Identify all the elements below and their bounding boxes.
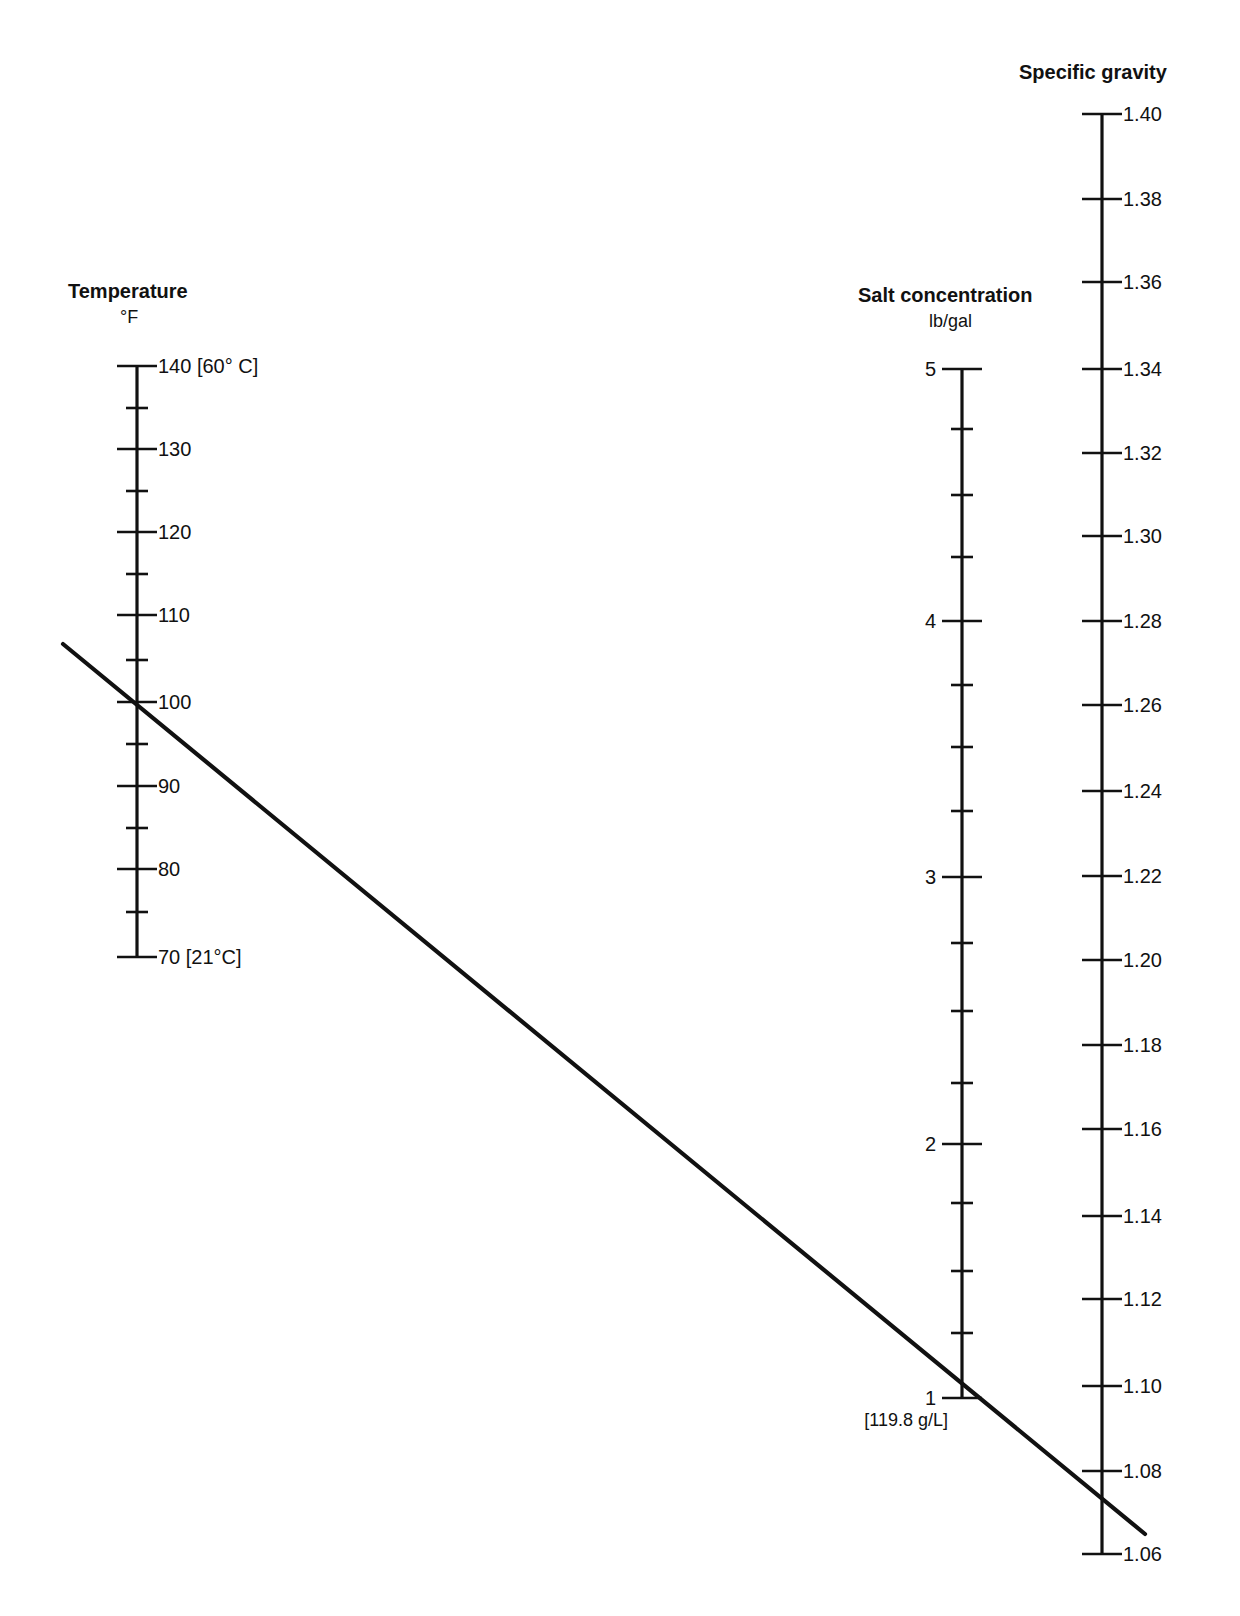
tick-label: 1.22 — [1123, 865, 1162, 887]
tick-label: 120 — [158, 521, 191, 543]
tick-label: 1.18 — [1123, 1034, 1162, 1056]
tick-label: 1.14 — [1123, 1205, 1162, 1227]
temperature-axis-title: Temperature — [68, 280, 188, 302]
tick-label: 1.32 — [1123, 442, 1162, 464]
specific-gravity-axis: 1.401.381.361.341.321.301.281.261.241.22… — [1082, 103, 1162, 1565]
tick-label: 1.26 — [1123, 694, 1162, 716]
axes-layer: 140 [60° C]130120110100908070 [21°C]5432… — [117, 103, 1162, 1565]
tick-label: 130 — [158, 438, 191, 460]
tick-label: 1.34 — [1123, 358, 1162, 380]
tick-label: 1.08 — [1123, 1460, 1162, 1482]
tick-label: 1.16 — [1123, 1118, 1162, 1140]
tick-label: 70 [21°C] — [158, 946, 242, 968]
tick-label: 90 — [158, 775, 180, 797]
tick-label: 1.38 — [1123, 188, 1162, 210]
salt-axis-unit: lb/gal — [929, 311, 972, 331]
tick-label: 3 — [925, 866, 936, 888]
tick-sublabel: [119.8 g/L] — [864, 1410, 948, 1430]
tick-label: 1.10 — [1123, 1375, 1162, 1397]
salt-axis-title: Salt concentration — [858, 284, 1032, 306]
temperature-axis-unit: °F — [120, 307, 138, 327]
tick-label: 140 [60° C] — [158, 355, 258, 377]
tick-label: 4 — [925, 610, 936, 632]
tick-label: 1.36 — [1123, 271, 1162, 293]
tick-label: 1.20 — [1123, 949, 1162, 971]
tick-label: 1.24 — [1123, 780, 1162, 802]
nomogram-chart: Temperature °F Salt concentration lb/gal… — [0, 0, 1240, 1616]
tick-label: 80 — [158, 858, 180, 880]
isopleth-reading-line — [63, 644, 1145, 1534]
tick-label: 1.30 — [1123, 525, 1162, 547]
tick-label: 1.06 — [1123, 1543, 1162, 1565]
tick-label: 110 — [158, 604, 190, 626]
salt-concentration-axis: 54321[119.8 g/L] — [864, 358, 982, 1430]
tick-label: 1.40 — [1123, 103, 1162, 125]
tick-label: 1.12 — [1123, 1288, 1162, 1310]
tick-label: 1 — [925, 1387, 936, 1409]
temperature-axis: 140 [60° C]130120110100908070 [21°C] — [117, 355, 258, 968]
tick-label: 5 — [925, 358, 936, 380]
tick-label: 100 — [158, 691, 191, 713]
tick-label: 1.28 — [1123, 610, 1162, 632]
specific-gravity-axis-title: Specific gravity — [1019, 61, 1168, 83]
tick-label: 2 — [925, 1133, 936, 1155]
